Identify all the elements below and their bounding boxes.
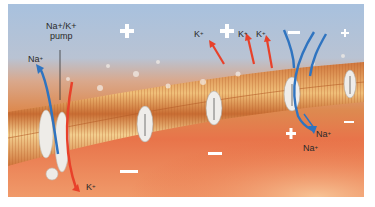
membrane-figure: Na+/K+ pump Na+ K+ K+ K+ K+ Na+ Na+ <box>8 4 364 197</box>
na-out-label: Na+ <box>28 54 43 64</box>
na-in-label-1: Na+ <box>316 129 331 139</box>
k-leak-label-2: K+ <box>238 29 248 39</box>
k-leak-label-3: K+ <box>256 29 266 39</box>
k-leak-label-1: K+ <box>194 29 204 39</box>
na-in-label-2: Na+ <box>303 143 318 153</box>
k-in-label: K+ <box>86 182 96 192</box>
pump-label: Na+/K+ pump <box>46 21 77 41</box>
